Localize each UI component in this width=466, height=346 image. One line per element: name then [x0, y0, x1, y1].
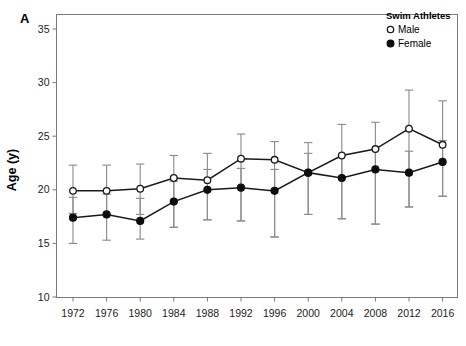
legend-label-male: Male	[398, 24, 420, 35]
data-point-female	[338, 175, 345, 182]
data-point-female	[439, 158, 446, 165]
x-tick-label: 1976	[95, 307, 119, 319]
x-tick-label: 1984	[162, 307, 186, 319]
x-tick-label: 1996	[263, 307, 287, 319]
data-point-female	[204, 186, 211, 193]
data-point-female	[238, 184, 245, 191]
legend-label-female: Female	[398, 38, 432, 49]
data-points-female	[70, 158, 447, 224]
legend-marker-male-open-circle-icon	[387, 26, 393, 32]
data-point-male	[439, 141, 446, 148]
legend-marker-female-filled-circle-icon	[387, 40, 394, 47]
y-tick-label: 30	[38, 76, 50, 88]
x-axis-ticks: 1972197619801984198819921996200020042008…	[61, 298, 454, 319]
data-point-female	[103, 211, 110, 218]
chart-legend: Swim Athletes Male Female	[386, 10, 451, 49]
data-point-female	[305, 169, 312, 176]
data-point-male	[271, 156, 278, 163]
x-tick-label: 2000	[297, 307, 321, 319]
data-point-male	[171, 175, 178, 182]
data-point-female	[372, 166, 379, 173]
data-point-female	[70, 214, 77, 221]
panel-label: A	[20, 11, 30, 26]
legend-title: Swim Athletes	[386, 10, 451, 21]
y-tick-label: 10	[38, 291, 50, 303]
data-point-male	[339, 152, 346, 159]
data-point-male	[238, 155, 245, 162]
x-tick-label: 1988	[196, 307, 220, 319]
data-point-male	[70, 188, 77, 195]
y-tick-label: 35	[38, 23, 50, 35]
plot-frame	[57, 15, 458, 298]
series-line-male	[73, 129, 443, 191]
data-point-male	[204, 177, 211, 184]
data-point-female	[406, 169, 413, 176]
x-tick-label: 2004	[330, 307, 354, 319]
y-tick-label: 15	[38, 237, 50, 249]
error-bars-male	[69, 90, 447, 237]
data-point-female	[271, 187, 278, 194]
x-tick-label: 1980	[129, 307, 153, 319]
data-point-male	[137, 185, 144, 192]
x-tick-label: 1972	[61, 307, 85, 319]
error-bars-female	[69, 140, 447, 243]
y-axis-ticks: 101520253035	[38, 23, 57, 303]
series-line-female	[73, 162, 443, 221]
y-axis-title: Age (y)	[5, 149, 19, 191]
age-by-olympic-year-chart: A Age (y) 101520253035 19721976198019841…	[0, 0, 466, 346]
data-point-female	[170, 198, 177, 205]
data-point-male	[372, 146, 379, 153]
x-tick-label: 1992	[229, 307, 253, 319]
y-tick-label: 25	[38, 130, 50, 142]
data-point-female	[137, 217, 144, 224]
x-tick-label: 2008	[364, 307, 388, 319]
x-tick-label: 2016	[431, 307, 455, 319]
x-tick-label: 2012	[397, 307, 421, 319]
data-point-male	[406, 125, 413, 132]
data-point-male	[103, 188, 110, 195]
figure-panel: A Age (y) 101520253035 19721976198019841…	[0, 0, 466, 346]
y-tick-label: 20	[38, 183, 50, 195]
